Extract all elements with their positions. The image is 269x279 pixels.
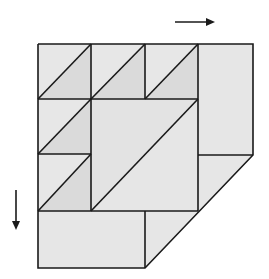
right-rectangle [198,44,253,155]
arrow-right-icon [175,18,215,26]
bottom-rectangle [38,211,145,268]
arrow-down-icon [12,190,20,230]
quilt-diagram [0,0,269,279]
